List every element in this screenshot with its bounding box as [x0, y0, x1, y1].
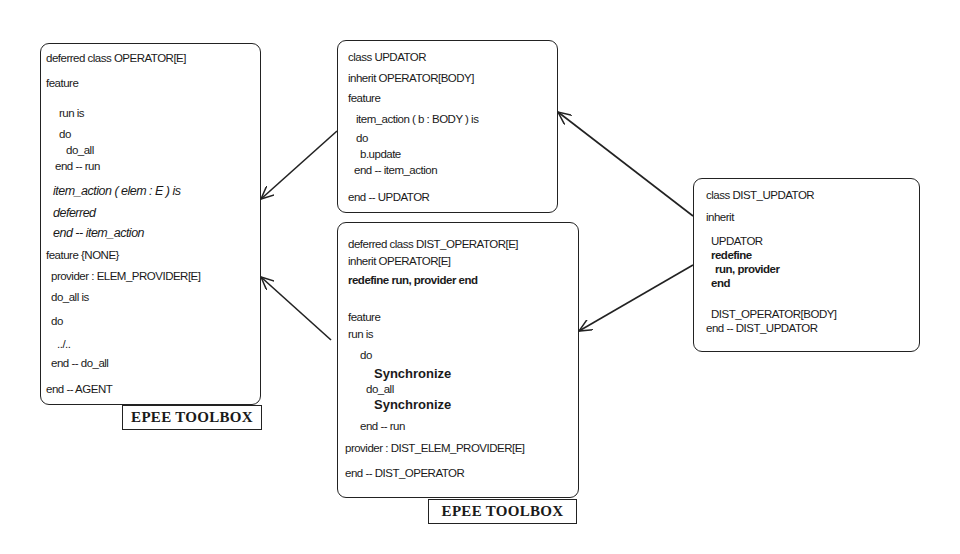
code-line: feature: [348, 91, 380, 105]
code-line: DIST_OPERATOR[BODY]: [711, 307, 837, 321]
code-line: feature: [46, 76, 78, 90]
code-line: run is: [348, 327, 373, 341]
code-line: inherit OPERATOR[BODY]: [348, 71, 474, 85]
code-line: class UPDATOR: [348, 50, 426, 64]
code-line: end -- AGENT: [46, 382, 112, 396]
code-line: deferred class OPERATOR[E]: [46, 51, 186, 65]
arrow-dist-updator-to-dist-operator: [579, 265, 693, 331]
code-line: feature {NONE}: [46, 248, 119, 262]
updator-class-box: class UPDATOR inherit OPERATOR[BODY] fea…: [337, 40, 558, 213]
arrow-dist-operator-to-operator: [261, 277, 331, 340]
code-line: provider : ELEM_PROVIDER[E]: [51, 269, 200, 283]
dist-updator-class-box: class DIST_UPDATOR inherit UPDATOR redef…: [693, 178, 920, 352]
code-line: end -- item_action: [354, 163, 437, 177]
code-line: do_all: [66, 143, 94, 157]
code-line: UPDATOR: [711, 234, 763, 248]
dist-operator-class-box: deferred class DIST_OPERATOR[E] inherit …: [337, 222, 579, 498]
code-line: inherit OPERATOR[E]: [348, 254, 451, 268]
code-line-redefine: redefine: [711, 248, 752, 262]
code-line-deferred: deferred: [53, 206, 96, 220]
epee-toolbox-label: EPEE TOOLBOX: [122, 405, 262, 430]
code-line-deferred: end -- item_action: [53, 226, 144, 240]
code-line: end -- do_all: [51, 356, 108, 370]
code-line: end -- run: [55, 159, 100, 173]
operator-class-box: deferred class OPERATOR[E] feature run i…: [40, 43, 261, 405]
code-line-redefine: redefine run, provider end: [348, 273, 478, 287]
code-line: class DIST_UPDATOR: [706, 188, 814, 202]
code-line: deferred class DIST_OPERATOR[E]: [348, 237, 518, 251]
arrow-updator-to-operator: [261, 131, 337, 199]
code-line: do_all: [366, 382, 394, 396]
code-line: end -- DIST_OPERATOR: [345, 466, 464, 480]
epee-toolbox-label: EPEE TOOLBOX: [428, 499, 577, 524]
code-line-deferred: item_action ( elem : E ) is: [53, 184, 181, 198]
code-line: do: [360, 348, 372, 362]
code-line: item_action ( b : BODY ) is: [356, 112, 478, 126]
code-line-redefine: end: [711, 276, 730, 290]
code-line: do: [59, 127, 71, 141]
code-line-synchronize: Synchronize: [374, 398, 451, 412]
code-line: do: [51, 314, 63, 328]
code-line-redefine: run, provider: [715, 262, 779, 276]
code-line: inherit: [706, 210, 734, 224]
code-line: feature: [348, 310, 380, 324]
code-line: run is: [59, 106, 84, 120]
code-line: end -- UPDATOR: [348, 190, 429, 204]
code-line: do: [356, 131, 368, 145]
code-line: end -- run: [360, 419, 405, 433]
code-line: provider : DIST_ELEM_PROVIDER[E]: [345, 441, 525, 455]
code-line-synchronize: Synchronize: [374, 367, 451, 381]
code-line: b.update: [360, 147, 401, 161]
code-line: do_all is: [51, 290, 89, 304]
arrow-dist-updator-to-updator: [558, 112, 693, 216]
code-line: end -- DIST_UPDATOR: [706, 321, 818, 335]
code-line: ../..: [57, 337, 70, 351]
